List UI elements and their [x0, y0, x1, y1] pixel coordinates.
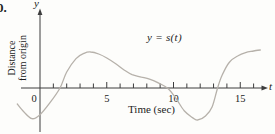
x-axis-letter: t — [269, 80, 272, 92]
problem-number: 0. — [0, 0, 7, 16]
curve-equation-label: y = s(t) — [147, 31, 182, 43]
y-axis-title: Distance from origin — [6, 23, 30, 93]
x-axis-arrow — [262, 86, 269, 91]
figure-canvas: 051015 0. y Distance from origin y = s(t… — [0, 0, 275, 134]
y-axis-title-line2: from origin — [17, 23, 28, 93]
y-axis-letter: y — [34, 0, 39, 9]
x-tick-label: 0 — [31, 93, 36, 104]
x-tick-label: 5 — [104, 93, 109, 104]
y-axis-title-line1: Distance — [6, 23, 17, 93]
x-axis-title: Time (sec) — [128, 103, 175, 115]
x-tick-label: 15 — [235, 93, 246, 104]
y-axis-arrow — [38, 9, 43, 16]
